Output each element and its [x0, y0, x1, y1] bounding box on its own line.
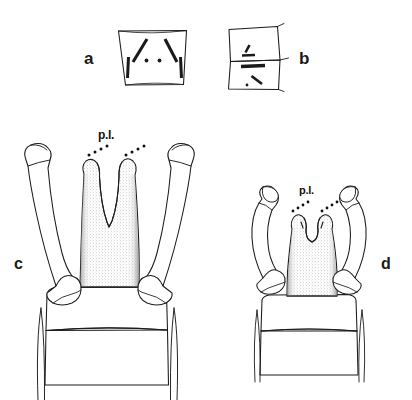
panel-a-seta-lower-right	[181, 57, 182, 78]
panel-d-cercus-left-outer	[254, 310, 257, 382]
panel-label-c: c	[14, 256, 23, 272]
panel-c-basal-lobe-right	[138, 275, 172, 305]
panel-b-seta-lower	[252, 76, 263, 84]
panel-a-seta-lower-left	[128, 57, 129, 78]
panel-b-bar-lower	[241, 66, 265, 67]
panel-b-puncture	[246, 84, 249, 87]
panel-d-cercus-right-outer	[362, 310, 365, 382]
illustration-canvas	[0, 0, 412, 400]
panel-a-drawing	[119, 31, 187, 86]
panel-c-cercus-left-inner	[41, 308, 45, 400]
panel-label-a: a	[84, 50, 93, 67]
panel-a-puncture-right	[158, 59, 162, 63]
panel-a-seta-upper-right	[165, 39, 177, 62]
panel-c-drawing	[25, 144, 194, 400]
panel-d-drawing	[252, 186, 366, 382]
panel-label-b: b	[299, 50, 309, 67]
panel-c-second-segment	[45, 328, 169, 385]
panel-c-cercus-right-inner	[170, 308, 174, 400]
panel-d-cercus-right-inner	[359, 310, 362, 382]
annotation-pl-panel-d: p.l.	[299, 185, 314, 196]
panel-b-tick-bottom	[279, 90, 285, 92]
panel-b-drawing	[229, 24, 289, 92]
panel-a-puncture-left	[145, 59, 149, 63]
panel-d-basal-segment	[261, 295, 357, 332]
annotation-pl-panel-c: p.l.	[98, 129, 114, 141]
panel-c-leader-dots	[88, 145, 146, 157]
panel-a-seta-upper-left	[133, 39, 147, 62]
panel-c-cercus-right-outer	[174, 308, 178, 400]
panel-b-seta-oblique	[246, 45, 250, 53]
panel-c-cercus-left-outer	[37, 308, 41, 400]
figure-plate: a b c d p.l. p.l.	[0, 0, 412, 400]
panel-b-tick-top	[278, 24, 285, 27]
panel-label-d: d	[381, 256, 391, 272]
panel-d-second-segment	[260, 329, 358, 375]
panel-b-tick-mid	[280, 58, 289, 60]
panel-b-upper-plate	[229, 27, 280, 62]
panel-b-bar-upper	[242, 55, 255, 56]
panel-c-basal-lobe-left	[47, 275, 81, 305]
panel-d-leader-dots	[292, 201, 339, 213]
